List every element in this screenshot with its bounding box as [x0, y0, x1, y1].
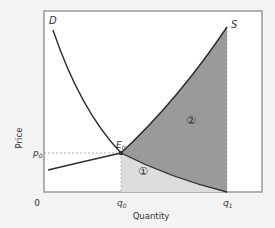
- equilibrium-point: [119, 151, 123, 155]
- demand-label: D: [49, 15, 57, 26]
- chart-figure: D S E0 ① ② p0 0 q0 q1 Quantity Price: [0, 0, 275, 228]
- q1-tick-label: q1: [223, 198, 233, 209]
- x-axis-title: Quantity: [133, 211, 170, 221]
- origin-label: 0: [34, 198, 40, 208]
- q0-tick-label: q0: [117, 198, 127, 209]
- p0-tick-label: p0: [32, 148, 43, 159]
- area-1-marker: ①: [138, 165, 148, 178]
- y-axis-title: Price: [14, 128, 24, 149]
- supply-label: S: [231, 19, 238, 30]
- area-2-marker: ②: [186, 114, 196, 127]
